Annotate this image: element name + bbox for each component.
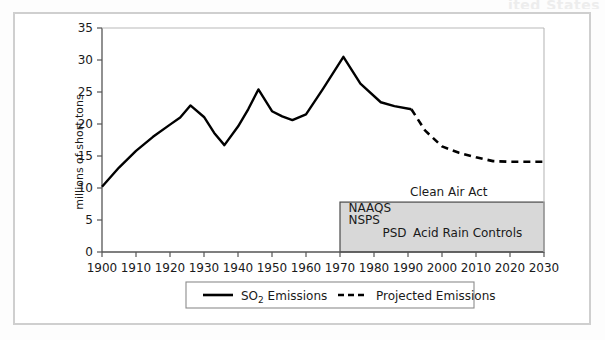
legend-label-main: Projected Emissions	[376, 289, 496, 303]
y-tick-label: 5	[85, 213, 93, 227]
data-series-group	[102, 57, 544, 187]
figure-frame: 0510152025303519001910192019301940195019…	[13, 12, 591, 325]
nsps-label: NSPS	[349, 213, 380, 227]
x-tick-label: 2030	[529, 261, 560, 275]
cropped-heading-fragment: ited States	[455, 0, 600, 9]
y-axis-title: millions of short tons	[73, 92, 89, 212]
series-line-projected	[411, 109, 544, 161]
x-tick-label: 1970	[325, 261, 356, 275]
x-tick-label: 2020	[495, 261, 526, 275]
legend-label: Projected Emissions	[376, 289, 496, 303]
legend-label-tail: Emissions	[264, 289, 327, 303]
x-tick-label: 2000	[427, 261, 458, 275]
legend-label: SO2 Emissions	[241, 289, 327, 305]
x-tick-label: 1960	[291, 261, 322, 275]
x-tick-label: 1940	[223, 261, 254, 275]
x-tick-label: 1990	[393, 261, 424, 275]
y-tick-label: 35	[78, 21, 93, 35]
clean-air-act-label: Clean Air Act	[410, 185, 488, 199]
x-tick-label: 1900	[87, 261, 118, 275]
legend-label-main: SO	[241, 289, 258, 303]
y-tick-label: 30	[78, 53, 93, 67]
page-background: ited States 0510152025303519001910192019…	[0, 0, 605, 340]
x-tick-label: 1920	[155, 261, 186, 275]
psd-label: PSD	[383, 226, 407, 240]
x-tick-label: 1930	[189, 261, 220, 275]
legend-group: SO2 EmissionsProjected Emissions	[186, 282, 496, 308]
y-tick-label: 0	[85, 245, 93, 259]
series-line-so2	[102, 57, 411, 187]
x-tick-label: 1910	[121, 261, 152, 275]
x-tick-label: 1950	[257, 261, 288, 275]
acid-rain-controls-label: Acid Rain Controls	[413, 226, 522, 240]
x-tick-label: 1980	[359, 261, 390, 275]
x-tick-label: 2010	[461, 261, 492, 275]
so2-emissions-line-chart: 0510152025303519001910192019301940195019…	[15, 14, 589, 323]
